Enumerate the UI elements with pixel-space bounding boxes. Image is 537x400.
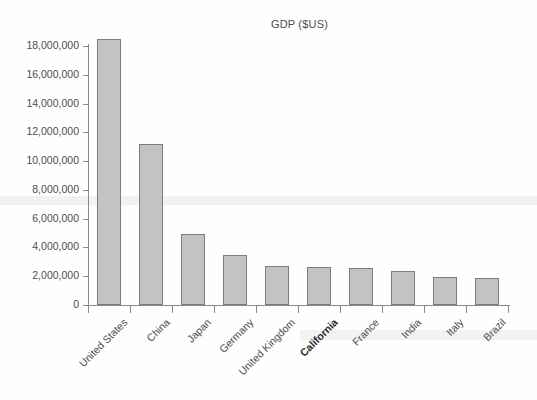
- y-axis-tick-label: 10,000,000: [1, 154, 79, 166]
- x-axis-tick: [466, 306, 467, 313]
- x-axis-tick: [214, 306, 215, 313]
- y-axis-tick: [83, 247, 89, 248]
- y-axis-tick-label: 14,000,000: [1, 97, 79, 109]
- x-axis-tick: [88, 306, 89, 313]
- x-axis-label-france: France: [350, 316, 382, 348]
- y-axis-tick-label-wrap: 6,000,000: [0, 219, 79, 220]
- x-axis-tick: [382, 306, 383, 313]
- x-axis-tick: [298, 306, 299, 313]
- y-axis-tick: [83, 104, 89, 105]
- y-axis-tick: [83, 75, 89, 76]
- bar-united-states[interactable]: [97, 39, 121, 305]
- y-axis-tick-label-wrap: 2,000,000: [0, 276, 79, 277]
- x-axis-label-japan: Japan: [185, 316, 214, 345]
- bar-japan[interactable]: [181, 234, 205, 305]
- x-axis-label-china: China: [144, 316, 172, 344]
- x-axis-tick: [172, 306, 173, 313]
- bar-united-kingdom[interactable]: [265, 266, 289, 305]
- y-axis-tick-label-wrap: 0: [0, 305, 79, 306]
- y-axis-tick-label-wrap: 14,000,000: [0, 104, 79, 105]
- y-axis-tick-label-wrap: 10,000,000: [0, 161, 79, 162]
- y-axis-tick-label: 8,000,000: [1, 183, 79, 195]
- x-axis-tick: [130, 306, 131, 313]
- y-axis-tick: [83, 161, 89, 162]
- y-axis-tick: [83, 46, 89, 47]
- y-axis-tick-label-wrap: 4,000,000: [0, 247, 79, 248]
- y-axis-tick-label-wrap: 12,000,000: [0, 132, 79, 133]
- x-axis-line: [88, 305, 510, 306]
- x-axis-tick: [256, 306, 257, 313]
- x-axis-label-india: India: [399, 316, 424, 341]
- y-axis-tick-label-wrap: 16,000,000: [0, 75, 79, 76]
- y-axis-tick-label: 4,000,000: [1, 240, 79, 252]
- bar-california[interactable]: [307, 267, 331, 305]
- x-axis-label-united-states: United States: [76, 316, 129, 369]
- y-axis-tick-label: 0: [1, 298, 79, 310]
- y-axis-tick-label: 16,000,000: [1, 68, 79, 80]
- y-axis-tick-label: 6,000,000: [1, 212, 79, 224]
- x-axis-label-california: California: [297, 316, 340, 359]
- y-axis-tick-label-wrap: 18,000,000: [0, 46, 79, 47]
- bar-brazil[interactable]: [475, 278, 499, 305]
- y-axis-line: [88, 44, 89, 306]
- y-axis-tick: [83, 219, 89, 220]
- y-axis-tick-label: 18,000,000: [1, 39, 79, 51]
- x-axis-label-brazil: Brazil: [480, 316, 507, 343]
- x-axis-label-germany: Germany: [216, 316, 255, 355]
- plot-area: 18,000,00016,000,00014,000,00012,000,000…: [0, 0, 537, 400]
- x-axis-tick: [508, 306, 509, 313]
- y-axis-tick: [83, 132, 89, 133]
- y-axis-tick-label: 12,000,000: [1, 125, 79, 137]
- y-axis-tick-label: 2,000,000: [1, 269, 79, 281]
- y-axis-tick: [83, 190, 89, 191]
- bar-italy[interactable]: [433, 277, 457, 305]
- y-axis-tick-label-wrap: 8,000,000: [0, 190, 79, 191]
- bar-germany[interactable]: [223, 255, 247, 305]
- bar-france[interactable]: [349, 268, 373, 305]
- chart-page: GDP ($US) 18,000,00016,000,00014,000,000…: [0, 0, 537, 400]
- bar-india[interactable]: [391, 271, 415, 305]
- x-axis-tick: [424, 306, 425, 313]
- x-axis-tick: [340, 306, 341, 313]
- x-axis-label-italy: Italy: [443, 316, 465, 338]
- bar-china[interactable]: [139, 144, 163, 305]
- y-axis-tick: [83, 276, 89, 277]
